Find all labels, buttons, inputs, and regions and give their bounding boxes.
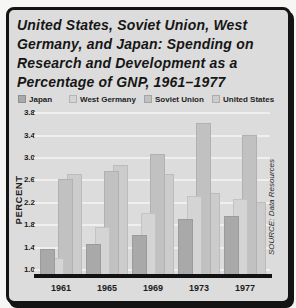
legend-item-west-germany: West Germany bbox=[69, 94, 136, 104]
chart-title-line-4: Percentage of GNP, 1961–1977 bbox=[17, 73, 285, 92]
legend-item-soviet-union: Soviet Union bbox=[144, 94, 204, 104]
x-axis-line bbox=[34, 274, 272, 278]
y-tick-label-1.0: 1.0 bbox=[9, 265, 35, 274]
source-credit: SOURCE: Data Resources bbox=[267, 142, 277, 272]
chart-title: United States, Soviet Union, WestGermany… bbox=[17, 16, 285, 92]
gridline-3.4 bbox=[34, 135, 270, 137]
bar-japan-1965 bbox=[86, 244, 101, 278]
x-tick-label-1973: 1973 bbox=[176, 283, 222, 293]
legend-label: Soviet Union bbox=[155, 95, 204, 104]
gridline-3.8 bbox=[34, 112, 270, 114]
x-tick-label-1961: 1961 bbox=[38, 283, 84, 293]
plot-area bbox=[38, 110, 268, 282]
chart-title-line-3: Research and Development as a bbox=[17, 54, 285, 73]
legend-label: Japan bbox=[29, 95, 52, 104]
legend-label: West Germany bbox=[80, 95, 136, 104]
legend-label: United States bbox=[223, 95, 274, 104]
legend-swatch-japan bbox=[18, 95, 26, 103]
legend-item-japan: Japan bbox=[18, 94, 52, 104]
y-tick-label-3.0: 3.0 bbox=[9, 153, 35, 162]
legend-swatch-soviet-union bbox=[144, 95, 152, 103]
x-tick-label-1965: 1965 bbox=[84, 283, 130, 293]
bar-japan-1977 bbox=[224, 216, 239, 278]
bar-japan-1973 bbox=[178, 219, 193, 278]
legend-swatch-west-germany bbox=[69, 95, 77, 103]
legend-item-united-states: United States bbox=[212, 94, 274, 104]
figure-canvas: United States, Soviet Union, WestGermany… bbox=[0, 0, 296, 308]
y-tick-label-3.8: 3.8 bbox=[9, 108, 35, 117]
y-tick-label-2.6: 2.6 bbox=[9, 175, 35, 184]
x-tick-label-1969: 1969 bbox=[130, 283, 176, 293]
x-tick-label-1977: 1977 bbox=[222, 283, 268, 293]
y-tick-label-2.2: 2.2 bbox=[9, 198, 35, 207]
chart-panel: United States, Soviet Union, WestGermany… bbox=[6, 7, 291, 304]
y-tick-label-1.4: 1.4 bbox=[9, 243, 35, 252]
y-tick-label-1.8: 1.8 bbox=[9, 220, 35, 229]
chart-content: United States, Soviet Union, WestGermany… bbox=[9, 10, 288, 301]
y-tick-label-3.4: 3.4 bbox=[9, 131, 35, 140]
chart-title-line-1: United States, Soviet Union, West bbox=[17, 16, 285, 35]
chart-title-line-2: Germany, and Japan: Spending on bbox=[17, 35, 285, 54]
legend-swatch-united-states bbox=[212, 95, 220, 103]
bar-japan-1969 bbox=[132, 235, 147, 278]
